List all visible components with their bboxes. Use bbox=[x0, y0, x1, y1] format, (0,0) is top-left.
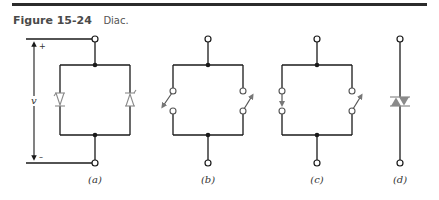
junction-dot bbox=[93, 63, 98, 68]
junction-dot bbox=[93, 133, 98, 138]
terminal-b-bottom bbox=[205, 160, 211, 166]
switch-right-arm-icon bbox=[244, 96, 252, 109]
panel-c-circuit bbox=[282, 42, 352, 160]
four-layer-diode-left-icon bbox=[54, 93, 65, 106]
terminal-a-top bbox=[92, 36, 98, 42]
panel-b-label: (b) bbox=[201, 174, 215, 185]
diac-diagrams: v + – bbox=[0, 0, 439, 200]
panel-c-label: (c) bbox=[310, 174, 323, 185]
switch-contact bbox=[279, 108, 285, 114]
switch-contact bbox=[349, 108, 355, 114]
terminal-c-top bbox=[314, 36, 320, 42]
switch-left-arm-icon bbox=[163, 93, 172, 106]
voltage-label: v bbox=[31, 95, 37, 106]
switch-contact bbox=[279, 88, 285, 94]
switch-open-arm-icon bbox=[353, 96, 361, 109]
terminal-b-top bbox=[205, 36, 211, 42]
switch-contact bbox=[349, 88, 355, 94]
terminal-a-bottom bbox=[92, 160, 98, 166]
panel-b-circuit bbox=[173, 42, 243, 160]
terminal-d-bottom bbox=[397, 160, 403, 166]
minus-sign: – bbox=[39, 153, 43, 162]
switch-contact bbox=[240, 108, 246, 114]
junction-dot bbox=[315, 133, 320, 138]
plus-sign: + bbox=[39, 42, 46, 51]
terminal-d-top bbox=[397, 36, 403, 42]
panel-d-label: (d) bbox=[393, 174, 407, 185]
panel-a-label: (a) bbox=[88, 174, 102, 185]
switch-contact bbox=[240, 88, 246, 94]
diac-symbol-icon bbox=[390, 97, 410, 106]
terminal-c-bottom bbox=[314, 160, 320, 166]
switch-contact bbox=[170, 108, 176, 114]
junction-dot bbox=[315, 63, 320, 68]
panel-a-circuit bbox=[26, 39, 130, 163]
junction-dot bbox=[206, 133, 211, 138]
switch-contact bbox=[170, 88, 176, 94]
junction-dot bbox=[206, 63, 211, 68]
